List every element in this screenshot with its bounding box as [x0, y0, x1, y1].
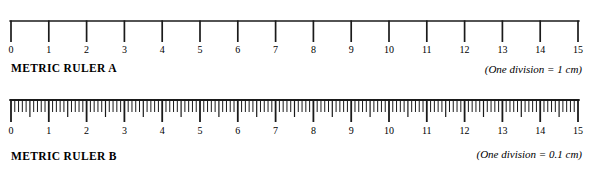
ruler-a-note: (One division = 1 cm): [485, 63, 582, 75]
ruler-b-title: METRIC RULER B: [11, 150, 117, 162]
ruler-b-tick-label: 14: [535, 125, 545, 136]
ruler-a-title: METRIC RULER A: [11, 62, 117, 74]
ruler-a-tick-label: 2: [84, 44, 89, 55]
metric-rulers-figure: 0123456789101112131415 METRIC RULER A (O…: [0, 0, 597, 173]
ruler-b-tick-label: 10: [384, 125, 394, 136]
ruler-b-tick-label: 15: [573, 125, 583, 136]
ruler-b-tick-label: 13: [497, 125, 507, 136]
ruler-b-tick-label: 3: [122, 125, 127, 136]
ruler-a-tick-label: 5: [198, 44, 203, 55]
ruler-a-tick-label: 15: [573, 44, 583, 55]
ruler-b-tick-label: 8: [311, 125, 316, 136]
ruler-a-tick-label: 8: [311, 44, 316, 55]
ruler-b-tick-label: 9: [349, 125, 354, 136]
ruler-a-tick-label: 12: [460, 44, 470, 55]
ruler-b-graphic: 0123456789101112131415: [0, 86, 597, 148]
ruler-b-tick-label: 12: [460, 125, 470, 136]
ruler-b-tick-label: 5: [198, 125, 203, 136]
ruler-a-tick-label: 4: [160, 44, 165, 55]
ruler-a-tick-label: 14: [535, 44, 545, 55]
ruler-b-tick-label: 4: [160, 125, 165, 136]
ruler-a-tick-label: 9: [349, 44, 354, 55]
ruler-b-tick-label: 1: [46, 125, 51, 136]
ruler-a-tick-label: 0: [9, 44, 14, 55]
ruler-a-tick-label: 11: [422, 44, 432, 55]
ruler-a-tick-label: 1: [46, 44, 51, 55]
ruler-b-tick-label: 7: [273, 125, 278, 136]
ruler-b-tick-label: 0: [9, 125, 14, 136]
ruler-a-tick-label: 3: [122, 44, 127, 55]
ruler-b-tick-label: 11: [422, 125, 432, 136]
metric-ruler-a: 0123456789101112131415 METRIC RULER A (O…: [0, 0, 597, 86]
ruler-a-tick-label: 13: [497, 44, 507, 55]
ruler-b-tick-label: 6: [235, 125, 240, 136]
metric-ruler-b: 0123456789101112131415 METRIC RULER B (O…: [0, 86, 597, 173]
ruler-b-tick-label: 2: [84, 125, 89, 136]
ruler-a-tick-label: 10: [384, 44, 394, 55]
ruler-a-tick-label: 7: [273, 44, 278, 55]
ruler-a-graphic: 0123456789101112131415: [0, 0, 597, 60]
ruler-b-note: (One division = 0.1 cm): [477, 148, 582, 160]
ruler-a-tick-label: 6: [235, 44, 240, 55]
